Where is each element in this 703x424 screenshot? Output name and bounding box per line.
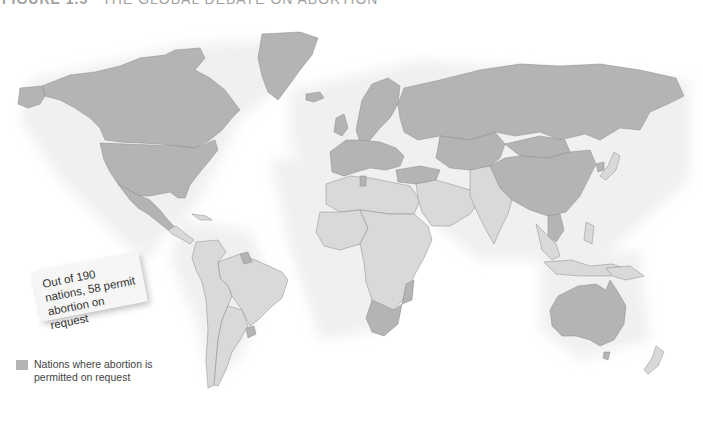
philippines xyxy=(584,222,594,244)
tasmania xyxy=(603,352,610,360)
map-legend: Nations where abortion is permitted on r… xyxy=(16,358,184,384)
new-zealand xyxy=(644,346,664,374)
tunisia xyxy=(360,176,366,186)
uruguay xyxy=(246,326,256,338)
legend-label-permitted: Nations where abortion is permitted on r… xyxy=(34,358,184,384)
legend-swatch-permitted xyxy=(16,360,28,370)
